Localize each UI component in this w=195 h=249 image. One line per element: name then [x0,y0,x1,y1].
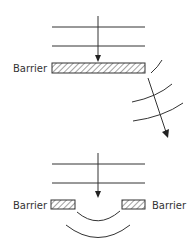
direction-arrow [148,78,166,132]
diffracted-wavefront [151,60,162,73]
diffracted-wavefront [66,225,130,238]
arrowhead-icon [95,55,101,62]
diffracted-wavefront [133,103,183,121]
bottom-panel: Barrier Barrier [13,153,187,238]
barrier-label: Barrier [13,63,48,74]
barrier-left-label: Barrier [13,200,48,211]
diffracted-wavefront [132,84,172,102]
barrier-right-label: Barrier [152,200,187,211]
diffracted-wavefront [77,211,120,221]
barrier-left [51,200,75,209]
arrowhead-icon [95,191,101,198]
diffraction-diagram: Barrier Barrier Barrier [0,0,195,249]
barrier-right [122,200,145,209]
top-panel: Barrier [13,16,183,138]
barrier-wide [52,63,145,73]
